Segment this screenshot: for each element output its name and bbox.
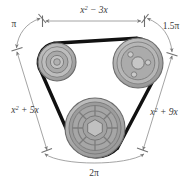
upper-right-arc-label: 1.5π [163, 21, 180, 31]
upper-left-arc-dimension [17, 14, 47, 48]
hex-hub [88, 120, 103, 137]
bottom-arc-label: 2π [89, 168, 99, 178]
lower-center-pulley [65, 98, 125, 158]
top-span-label: x2 − 3x [79, 4, 108, 16]
upper-right-pulley [113, 38, 163, 88]
upper-left-arc-label: π [12, 19, 17, 29]
top-span-dimension [43, 16, 145, 28]
right-span-label: x2 + 9x [149, 106, 178, 118]
upper-left-pulley [38, 43, 76, 81]
left-span-label: x2 + 5x [10, 104, 39, 116]
pulley-diagram: x2 − 3x π 1.5π x2 + 5x x2 + 9x 2π [0, 0, 188, 181]
